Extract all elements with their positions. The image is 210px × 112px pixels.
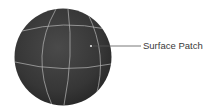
surface-patch-label: Surface Patch [143,40,203,52]
surface-patch-marker [90,45,92,47]
sphere [15,9,112,106]
sphere-diagram [0,0,210,112]
